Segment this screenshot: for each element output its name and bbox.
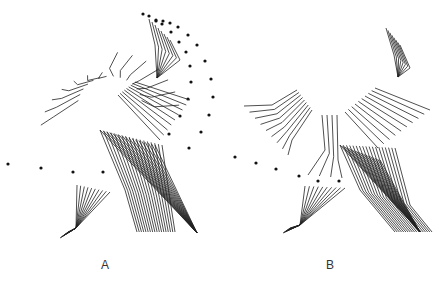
panel-a-traces [6,12,197,238]
trace-segment [266,123,282,131]
trace-segment [144,194,153,232]
trace-segment [322,115,325,150]
trace-segment [118,95,160,140]
marker-dot [211,95,214,98]
trace-segment [280,98,303,119]
trace-segment [255,114,277,119]
trace-segment [261,118,280,124]
trace-segment [352,107,390,140]
marker-dot [176,25,179,28]
marker-dot [337,179,340,182]
trace-segment [127,75,131,81]
marker-dot [199,130,202,133]
marker-dot [168,21,171,24]
panel-label-b: B [326,258,334,272]
marker-dot [297,174,300,177]
trace-segment [300,188,336,225]
marker-dot [316,179,319,182]
marker-dot [101,170,104,173]
trace-segment [332,115,334,157]
trace-segment [129,87,179,115]
trace-segment [120,55,132,70]
marker-dot [187,146,190,149]
marker-dot [39,166,42,169]
marker-dot [141,12,144,15]
trace-segment [362,99,407,127]
trace-segment [155,45,157,78]
trace-segment [157,60,180,78]
marker-dot [254,161,257,164]
trace-segment [277,95,301,114]
trace-segment [54,100,79,116]
marker-dot [207,113,210,116]
trace-segment [57,94,81,107]
figure-canvas [0,0,444,285]
trace-segment [88,78,100,81]
marker-dot [189,80,192,83]
trace-segment [125,190,137,232]
marker-dot [154,19,157,22]
trace-segment [337,115,338,160]
marker-dot [188,64,191,67]
trace-segment [368,93,418,118]
panel-b-traces [154,19,432,233]
trace-segment [348,109,383,143]
trace-segment [288,140,292,155]
marker-dot [71,170,74,173]
marker-dot [167,132,170,135]
trace-segment [308,150,325,175]
marker-dot [195,43,198,46]
marker-dot [178,114,181,117]
trace-segment [149,195,157,232]
marker-dot [160,22,163,25]
marker-dot [184,50,187,53]
marker-dot [274,167,277,170]
trace-segment [69,84,88,91]
trace-segment [292,110,312,140]
marker-dot [209,77,212,80]
trace-segment [355,104,395,135]
marker-dot [169,30,172,33]
trace-segment [68,228,76,232]
trace-segment [52,98,62,99]
trace-segment [74,81,78,85]
trace-segment [142,100,155,106]
trace-segment [128,191,140,232]
trace-segment [277,131,287,143]
trace-segment [327,115,329,153]
trace-segment [358,101,401,131]
trace-segment [62,89,69,90]
trace-segment [375,88,430,110]
trace-segment [283,136,290,149]
trace-segment [372,91,425,115]
trace-segment [110,68,114,76]
trace-segment [110,52,118,68]
marker-dot [233,155,236,158]
marker-dot [147,14,150,17]
trace-segment [41,117,54,125]
trace-segment [343,145,363,191]
trace-segment [244,105,272,106]
trace-segment [139,69,158,80]
trace-segment [45,107,57,112]
trace-segment [78,80,94,84]
trace-segment [146,195,155,232]
marker-dot [6,162,9,165]
trace-segment [130,61,146,75]
trace-segment [250,109,275,112]
panel-label-a: A [101,258,109,272]
marker-dot [203,59,206,62]
trace-segment [338,160,342,178]
trace-segment [272,127,285,137]
trace-segment [331,157,334,177]
trace-segment [345,112,378,148]
trace-segment [300,188,341,225]
trace-segment [130,191,141,232]
marker-dot [161,19,164,22]
marker-dot [186,33,189,36]
marker-dot [177,40,180,43]
